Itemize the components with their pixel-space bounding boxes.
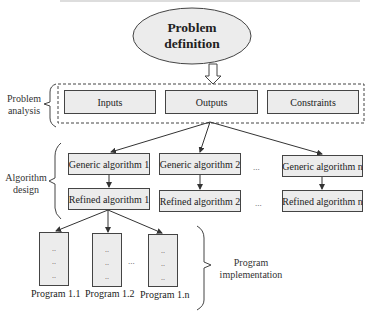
program-1-2-box: .. .. .. bbox=[92, 233, 122, 287]
ellipsis-generic: ... bbox=[253, 162, 260, 172]
stage-label-problem-analysis: Problem analysis bbox=[2, 93, 46, 117]
stage-label-algorithm-design: Algorithm design bbox=[2, 172, 50, 196]
refined-algorithm-1-box: Refined algorithm 1 bbox=[68, 188, 150, 210]
problem-definition-title: Problem definition bbox=[133, 20, 251, 52]
stage-line2: design bbox=[2, 184, 50, 196]
stage-line2: implementation bbox=[212, 269, 290, 281]
stage-line2: analysis bbox=[2, 105, 46, 117]
program-content: .. bbox=[40, 272, 68, 280]
program-content: .. bbox=[40, 258, 68, 266]
program-1-1-box: .. .. .. bbox=[39, 232, 69, 286]
program-content: .. bbox=[40, 245, 68, 253]
hollow-down-arrow-icon bbox=[205, 64, 221, 84]
outputs-box: Outputs bbox=[165, 90, 258, 114]
title-line1: Problem bbox=[133, 20, 251, 36]
program-1-1-label: Program 1.1 bbox=[31, 288, 80, 299]
program-1-n-box: .. .. .. bbox=[148, 234, 178, 287]
program-1-n-label: Program 1.n bbox=[140, 289, 189, 300]
program-1-2-label: Program 1.2 bbox=[85, 288, 134, 299]
inputs-box: Inputs bbox=[64, 90, 156, 114]
ellipsis-refined: ... bbox=[255, 198, 262, 208]
refined-algorithm-2-box: Refined algorithm 2 bbox=[159, 190, 241, 212]
constraints-box: Constraints bbox=[267, 90, 359, 114]
brace-algorithm-design bbox=[49, 143, 61, 219]
stage-line1: Algorithm bbox=[2, 172, 50, 184]
program-content: .. bbox=[93, 273, 121, 281]
program-content: .. bbox=[149, 274, 177, 282]
stage-line1: Problem bbox=[2, 93, 46, 105]
generic-algorithm-n-box: Generic algorithm n bbox=[282, 155, 363, 177]
ellipsis-programs: ... bbox=[128, 256, 135, 266]
refined-algorithm-n-box: Refined algorithm n bbox=[282, 190, 363, 212]
program-content: .. bbox=[149, 260, 177, 268]
stage-line1: Program bbox=[212, 257, 290, 269]
program-content: .. bbox=[93, 259, 121, 267]
title-line2: definition bbox=[133, 36, 251, 52]
generic-algorithm-2-box: Generic algorithm 2 bbox=[159, 153, 241, 175]
program-content: .. bbox=[149, 247, 177, 255]
brace-program-implementation bbox=[197, 226, 211, 310]
stage-label-program-implementation: Program implementation bbox=[212, 257, 290, 281]
generic-algorithm-1-box: Generic algorithm 1 bbox=[68, 153, 150, 175]
program-content: .. bbox=[93, 246, 121, 254]
